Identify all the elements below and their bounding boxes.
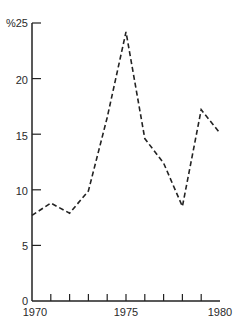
x-tick-label-1980: 1980 [208, 306, 232, 318]
x-tick-label-1975: 1975 [114, 306, 138, 318]
y-tick-label-20: 20 [16, 74, 28, 86]
x-tick-label-1970: 1970 [23, 306, 47, 318]
y-axis [32, 23, 41, 301]
data-line-dashed [32, 32, 220, 216]
y-tick-label-5: 5 [22, 240, 28, 252]
x-axis [32, 294, 220, 301]
line-chart: %25 20 15 10 5 0 1970 1975 1980 [0, 0, 241, 331]
y-tick-label-25: %25 [6, 17, 28, 29]
y-tick-label-15: 15 [16, 130, 28, 142]
y-tick-label-10: 10 [16, 185, 28, 197]
